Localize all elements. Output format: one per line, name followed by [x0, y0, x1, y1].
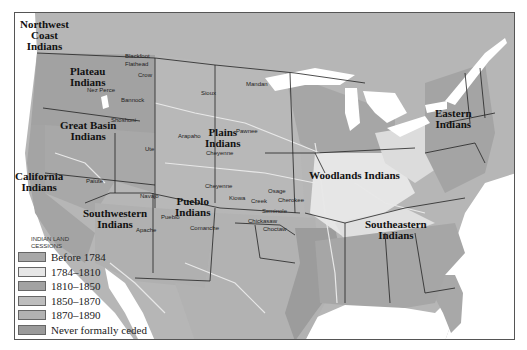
tribe-navajo: Navajo [140, 193, 159, 199]
label-plateau: Plateau Indians [70, 66, 105, 88]
tribe-paiute: Paiute [86, 178, 103, 184]
tribe-comanche: Comanche [190, 225, 219, 231]
legend-label: 1850–1870 [51, 295, 101, 307]
legend-item-never-ceded: Never formally ceded [18, 323, 178, 338]
tribe-cheyenne-south: Cheyenne [205, 183, 232, 189]
legend-swatch [18, 281, 46, 291]
legend-label: 1784–1810 [51, 266, 101, 278]
legend-swatch [18, 267, 46, 277]
tribe-seminole: Seminole [262, 208, 287, 214]
tribe-sioux: Sioux [201, 90, 216, 96]
tribe-blackfoot: Blackfoot [125, 53, 150, 59]
legend-label: Before 1784 [51, 251, 106, 263]
legend-label: Never formally ceded [51, 324, 147, 336]
label-southeastern: Southeastern Indians [365, 219, 427, 241]
tribe-ute: Ute [145, 146, 154, 152]
label-pueblo: Pueblo Indians [175, 196, 210, 218]
legend-swatch [18, 325, 46, 335]
label-eastern: Eastern Indians [435, 108, 472, 130]
tribe-osage: Osage [268, 188, 286, 194]
tribe-mandan: Mandan [246, 81, 268, 87]
tribe-crow: Crow [138, 72, 152, 78]
legend-swatch [18, 252, 46, 262]
legend-item-before-1784: Before 1784 [18, 250, 178, 265]
tribe-chickasaw: Chickasaw [248, 218, 277, 224]
tribe-creek: Creek [251, 198, 267, 204]
legend-title: INDIAN LAND CESSIONS [31, 236, 91, 250]
tribe-shoshoni: Shoshoni [111, 117, 136, 123]
label-california: California Indians [15, 171, 63, 193]
tribe-bannock: Bannock [121, 97, 144, 103]
tribe-cherokee: Cherokee [278, 197, 304, 203]
legend-item-1784-1810: 1784–1810 [18, 265, 178, 280]
tribe-choctaw: Choctaw [263, 226, 286, 232]
legend-item-1850-1870: 1850–1870 [18, 294, 178, 309]
legend-item-1810-1850: 1810–1850 [18, 279, 178, 294]
map-frame: Northwest Coast Indians Plateau Indians … [14, 12, 515, 340]
legend-label: 1810–1850 [51, 280, 101, 292]
tribe-nez-perce: Nez Perce [87, 87, 115, 93]
label-woodlands: Woodlands Indians [309, 170, 400, 181]
tribe-pawnee: Pawnee [236, 128, 258, 134]
tribe-pueblo: Pueblo [161, 214, 180, 220]
legend-label: 1870–1890 [51, 309, 101, 321]
tribe-cheyenne-north: Cheyenne [206, 150, 233, 156]
tribe-kiowa: Kiowa [229, 195, 245, 201]
legend: INDIAN LAND CESSIONS Before 1784 1784–18… [18, 236, 178, 337]
legend-swatch [18, 310, 46, 320]
label-northwest-coast: Northwest Coast Indians [20, 19, 69, 52]
legend-item-1870-1890: 1870–1890 [18, 308, 178, 323]
tribe-apache: Apache [136, 227, 156, 233]
legend-swatch [18, 296, 46, 306]
label-great-basin: Great Basin Indians [60, 120, 116, 142]
tribe-arapaho: Arapaho [178, 133, 201, 139]
tribe-flathead: Flathead [125, 61, 148, 67]
